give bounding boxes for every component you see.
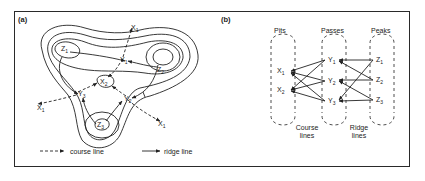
pass-y2: Y2 <box>328 77 335 86</box>
node-z2: Z2 <box>157 66 164 75</box>
node-x1-top: X1 <box>131 24 138 33</box>
legend-course-label: course line <box>70 148 104 155</box>
column-header-peaks: Peaks <box>371 27 390 34</box>
pass-y3: Y3 <box>328 97 335 106</box>
pit-x2: X2 <box>277 86 284 95</box>
panel-b-label: (b) <box>221 16 231 24</box>
node-x1-right: X1 <box>158 120 165 129</box>
graph-course-edges <box>291 60 325 101</box>
node-y3: Y3 <box>78 90 85 99</box>
node-z3: Z3 <box>97 121 104 130</box>
pass-y1: Y1 <box>328 56 335 65</box>
caption-ridge-line-1: Ridge <box>345 124 373 131</box>
legend-ridge-label: ridge line <box>164 148 192 155</box>
contour-z2-inner <box>153 49 173 65</box>
peak-z3: Z3 <box>376 96 383 105</box>
column-header-pits: Pits <box>274 27 286 34</box>
node-z1: Z1 <box>61 45 68 54</box>
peak-z2: Z2 <box>376 76 383 85</box>
column-header-passes: Passes <box>321 27 344 34</box>
graph-ridge-edges <box>339 60 373 101</box>
panel-a-label: (a) <box>18 16 27 24</box>
caption-course-line-1: Course <box>293 124 321 131</box>
caption-ridge-line-2: lines <box>345 132 373 139</box>
caption-course-line-2: lines <box>293 132 321 139</box>
pit-x1: X1 <box>277 67 284 76</box>
node-x2: X2 <box>100 78 107 87</box>
node-y2: Y2 <box>124 95 131 104</box>
node-y1: Y1 <box>120 56 127 65</box>
contour-map <box>41 25 198 148</box>
peak-z1: Z1 <box>376 56 383 65</box>
figure-canvas <box>0 0 425 181</box>
node-x1-left: X1 <box>37 104 44 113</box>
